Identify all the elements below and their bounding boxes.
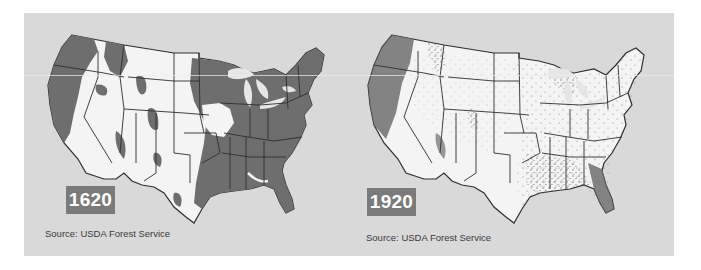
figure-canvas: 1620 Source: USDA Forest Service bbox=[24, 13, 674, 256]
source-caption: Source: USDA Forest Service bbox=[45, 228, 170, 239]
map-panel-1920: 1920 Source: USDA Forest Service bbox=[350, 13, 674, 256]
us-forest-map-1620 bbox=[24, 13, 350, 256]
image-seam-line bbox=[24, 75, 674, 76]
source-caption: Source: USDA Forest Service bbox=[366, 232, 491, 243]
year-badge: 1620 bbox=[66, 186, 115, 214]
year-badge: 1920 bbox=[367, 188, 416, 216]
us-forest-map-1920 bbox=[350, 13, 674, 256]
map-panel-1620: 1620 Source: USDA Forest Service bbox=[24, 13, 350, 256]
